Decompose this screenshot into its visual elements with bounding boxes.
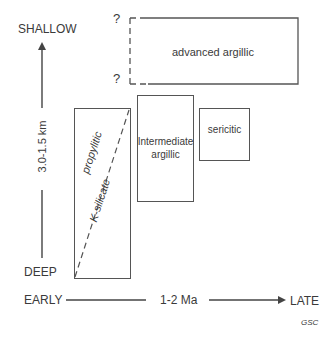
uncertain-bottom-mark: ? — [113, 72, 120, 85]
intermediate-argillic-label-line1: Intermediate — [137, 137, 194, 147]
advanced-argillic-label: advanced argillic — [172, 47, 254, 58]
credit-label: GSC — [301, 319, 318, 327]
uncertain-top-mark: ? — [113, 12, 120, 25]
duration-label: 1-2 Ma — [160, 294, 197, 306]
sericitic-label: sericitic — [199, 125, 250, 135]
intermediate-argillic-label-line2: argillic — [137, 150, 194, 160]
early-label: EARLY — [24, 294, 62, 306]
late-label: LATE — [290, 295, 319, 307]
depth-range-label: 3.0-1.5 km — [37, 107, 48, 187]
shallow-label: SHALLOW — [18, 23, 77, 35]
deep-label: DEEP — [24, 266, 57, 278]
